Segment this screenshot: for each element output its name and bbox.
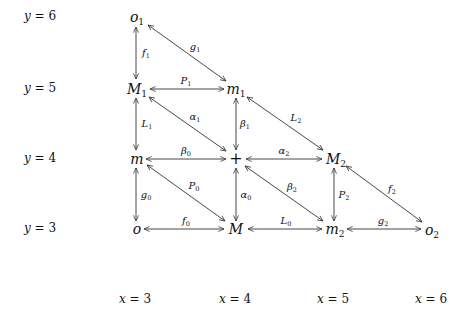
variable: y <box>24 151 31 165</box>
node-subscript: 2 <box>339 229 345 239</box>
equals: = <box>126 292 144 306</box>
node-symbol: M <box>229 221 243 237</box>
double-arrow-alpha1 <box>149 97 226 151</box>
equals: = <box>226 292 244 306</box>
edge-label-alpha1: α1 <box>190 112 201 122</box>
node-m2: m2 <box>325 222 344 236</box>
node-symbol: M <box>127 81 141 97</box>
row-label-y6: y = 6 <box>24 10 56 23</box>
node-M: M <box>229 222 243 236</box>
variable: y <box>24 9 31 23</box>
value: 4 <box>48 151 56 165</box>
edge-label-P1: P1 <box>181 76 192 86</box>
column-label-x4: x = 4 <box>219 293 251 306</box>
value: 6 <box>439 292 447 306</box>
equals: = <box>31 221 49 235</box>
double-arrow-P0 <box>147 165 225 221</box>
edge-label-f1: f1 <box>142 48 150 58</box>
edge-label-beta2: β2 <box>287 182 297 192</box>
node-symbol: + <box>229 149 242 168</box>
equals: = <box>422 292 440 306</box>
row-label-y3: y = 3 <box>24 222 56 235</box>
node-m1: m1 <box>226 82 245 96</box>
node-subscript: 1 <box>141 89 147 99</box>
node-o: o <box>133 222 141 236</box>
edge-label-f0: f0 <box>182 216 190 226</box>
edge-label-alpha2: α2 <box>279 146 290 156</box>
node-symbol: m <box>130 151 143 167</box>
node-M2: M2 <box>326 152 346 166</box>
edge-label-alpha0: α0 <box>241 190 252 200</box>
value: 6 <box>48 9 56 23</box>
edge-label-beta1: β1 <box>240 119 250 129</box>
node-symbol: m <box>325 221 338 237</box>
edge-label-P0: P0 <box>189 181 200 191</box>
edge-label-f2: f2 <box>388 184 396 194</box>
commutative-diagram: y = 6y = 5y = 4y = 3 x = 3x = 4x = 5x = … <box>0 0 472 320</box>
variable: y <box>24 221 31 235</box>
value: 4 <box>243 292 251 306</box>
column-label-x6: x = 6 <box>415 293 447 306</box>
column-label-x3: x = 3 <box>119 293 151 306</box>
edge-label-L2: L2 <box>291 113 302 123</box>
edge-label-g1: g1 <box>190 42 201 52</box>
double-arrow-L2 <box>247 97 323 150</box>
node-o2: o2 <box>425 223 439 237</box>
edge-label-g0: g0 <box>141 190 152 200</box>
edge-label-beta0: β0 <box>181 146 191 156</box>
value: 3 <box>48 221 56 235</box>
node-M1: M1 <box>127 82 147 96</box>
double-arrow-g1 <box>148 25 226 81</box>
node-subscript: 2 <box>340 159 346 169</box>
double-arrow-f2 <box>346 166 422 222</box>
variable: x <box>219 292 226 306</box>
node-symbol: m <box>226 81 239 97</box>
value: 3 <box>143 292 151 306</box>
equals: = <box>31 9 49 23</box>
equals: = <box>31 151 49 165</box>
node-subscript: 1 <box>138 17 144 27</box>
node-o1: o1 <box>130 10 144 24</box>
column-label-x5: x = 5 <box>317 293 349 306</box>
node-subscript: 1 <box>240 89 246 99</box>
variable: x <box>119 292 126 306</box>
row-label-y5: y = 5 <box>24 82 56 95</box>
variable: y <box>24 81 31 95</box>
equals: = <box>324 292 342 306</box>
node-symbol: M <box>326 151 340 167</box>
variable: x <box>415 292 422 306</box>
edge-label-P2: P2 <box>339 190 350 200</box>
node-m: m <box>130 152 143 166</box>
variable: x <box>317 292 324 306</box>
node-symbol: o <box>133 221 141 237</box>
edge-label-g2: g2 <box>378 216 389 226</box>
edge-label-L1: L1 <box>142 119 153 129</box>
node-subscript: 2 <box>433 230 439 240</box>
node-plus: + <box>229 152 242 166</box>
value: 5 <box>48 81 56 95</box>
equals: = <box>31 81 49 95</box>
edge-label-L0: L0 <box>281 216 292 226</box>
row-label-y4: y = 4 <box>24 152 56 165</box>
double-arrow-beta2 <box>245 166 323 221</box>
value: 5 <box>341 292 349 306</box>
